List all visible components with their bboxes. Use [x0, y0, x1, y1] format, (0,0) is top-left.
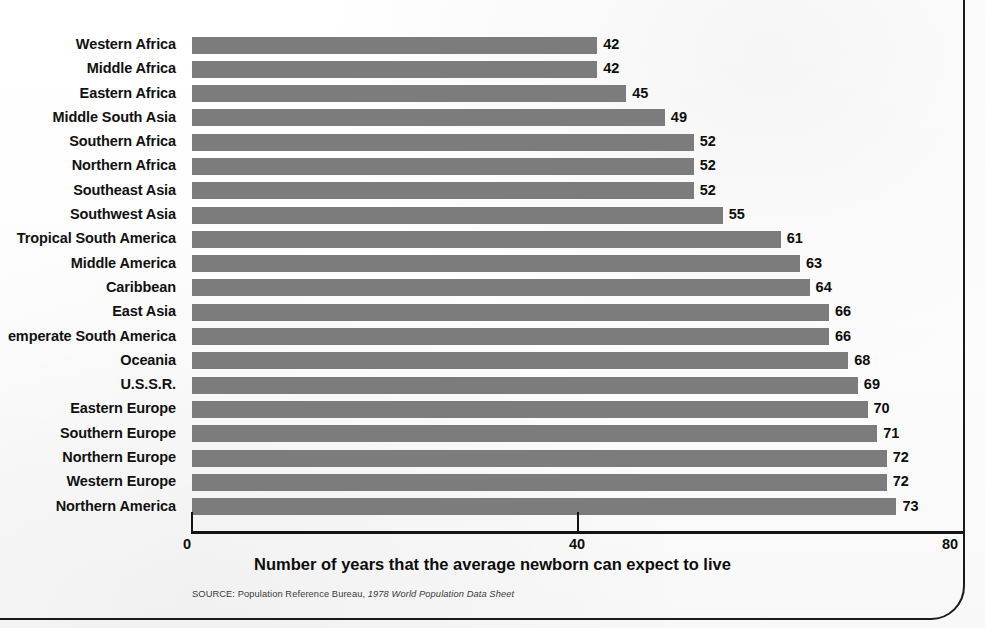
category-label: Oceania	[0, 352, 184, 370]
category-label: emperate South America	[0, 328, 184, 346]
bar-row: Middle Africa42	[0, 60, 985, 84]
source-publication-title: 1978 World Population Data Sheet	[368, 589, 514, 599]
bar-rows: Western Africa42Middle Africa42Eastern A…	[0, 36, 985, 522]
category-label: Northern America	[0, 498, 184, 516]
category-label: Eastern Europe	[0, 400, 184, 418]
x-axis-tick-0	[191, 512, 194, 534]
bar-value-label: 52	[700, 133, 716, 151]
bar-row: U.S.S.R.69	[0, 376, 985, 400]
bar-value-label: 49	[671, 109, 687, 127]
bar-value-label: 52	[700, 182, 716, 200]
life-expectancy-bar-chart: Western Africa42Middle Africa42Eastern A…	[0, 0, 985, 628]
bar	[192, 328, 829, 345]
bar-value-label: 45	[632, 85, 648, 103]
bar	[192, 425, 877, 442]
category-label: East Asia	[0, 303, 184, 321]
category-label: Middle South Asia	[0, 109, 184, 127]
bar-row: Eastern Europe70	[0, 400, 985, 424]
bar-row: Western Europe72	[0, 473, 985, 497]
category-label: Middle America	[0, 255, 184, 273]
bar-value-label: 66	[835, 328, 851, 346]
bar	[192, 377, 858, 394]
bar	[192, 85, 626, 102]
bar-value-label: 72	[893, 449, 909, 467]
x-axis-tick-40	[577, 512, 580, 534]
source-prefix: SOURCE: Population Reference Bureau,	[192, 589, 368, 599]
bar	[192, 37, 597, 54]
bar-value-label: 73	[902, 498, 918, 516]
bar	[192, 109, 665, 126]
x-axis-tick-label-80: 80	[942, 536, 958, 552]
bar-value-label: 68	[854, 352, 870, 370]
bar-value-label: 55	[729, 206, 745, 224]
bar	[192, 450, 887, 467]
bar-row: East Asia66	[0, 303, 985, 327]
bar-value-label: 64	[816, 279, 832, 297]
bar-row: emperate South America66	[0, 328, 985, 352]
x-axis-tick-label-0: 0	[183, 536, 191, 552]
bar	[192, 401, 868, 418]
bar-row: Southeast Asia52	[0, 182, 985, 206]
bar	[192, 61, 597, 78]
bar	[192, 207, 723, 224]
category-label: Southwest Asia	[0, 206, 184, 224]
bar	[192, 304, 829, 321]
bar-value-label: 42	[603, 36, 619, 54]
category-label: Middle Africa	[0, 60, 184, 78]
category-label: Southern Africa	[0, 133, 184, 151]
bar-row: Middle America63	[0, 255, 985, 279]
bar-value-label: 63	[806, 255, 822, 273]
chart-page: Western Africa42Middle Africa42Eastern A…	[0, 0, 985, 628]
category-label: Southeast Asia	[0, 182, 184, 200]
bar-row: Caribbean64	[0, 279, 985, 303]
bar	[192, 498, 896, 515]
bar-value-label: 69	[864, 376, 880, 394]
bar-row: Northern Europe72	[0, 449, 985, 473]
bar-value-label: 71	[883, 425, 899, 443]
bar-row: Eastern Africa45	[0, 85, 985, 109]
category-label: Tropical South America	[0, 230, 184, 248]
bar-value-label: 70	[874, 400, 890, 418]
category-label: Eastern Africa	[0, 85, 184, 103]
bar-value-label: 72	[893, 473, 909, 491]
category-label: Western Africa	[0, 36, 184, 54]
bar-value-label: 42	[603, 60, 619, 78]
category-label: Southern Europe	[0, 425, 184, 443]
bar-row: Tropical South America61	[0, 230, 985, 254]
bar-row: Oceania68	[0, 352, 985, 376]
x-axis-tick-label-40: 40	[569, 536, 585, 552]
bar	[192, 352, 848, 369]
bar-value-label: 66	[835, 303, 851, 321]
bar-row: Northern Africa52	[0, 157, 985, 181]
bar-row: Middle South Asia49	[0, 109, 985, 133]
bar-row: Southern Africa52	[0, 133, 985, 157]
bar-row: Southwest Asia55	[0, 206, 985, 230]
bar-value-label: 61	[787, 230, 803, 248]
bar-row: Western Africa42	[0, 36, 985, 60]
category-label: U.S.S.R.	[0, 376, 184, 394]
bar	[192, 134, 694, 151]
bar	[192, 158, 694, 175]
bar	[192, 474, 887, 491]
bar	[192, 231, 781, 248]
category-label: Caribbean	[0, 279, 184, 297]
bar-value-label: 52	[700, 157, 716, 175]
x-axis-title: Number of years that the average newborn…	[0, 555, 985, 574]
x-axis-tick-80	[963, 512, 966, 534]
bar	[192, 279, 810, 296]
bar	[192, 255, 800, 272]
source-note: SOURCE: Population Reference Bureau, 197…	[192, 589, 514, 599]
bar-row: Northern America73	[0, 498, 985, 522]
category-label: Northern Europe	[0, 449, 184, 467]
bar	[192, 182, 694, 199]
bar-row: Southern Europe71	[0, 425, 985, 449]
category-label: Western Europe	[0, 473, 184, 491]
category-label: Northern Africa	[0, 157, 184, 175]
